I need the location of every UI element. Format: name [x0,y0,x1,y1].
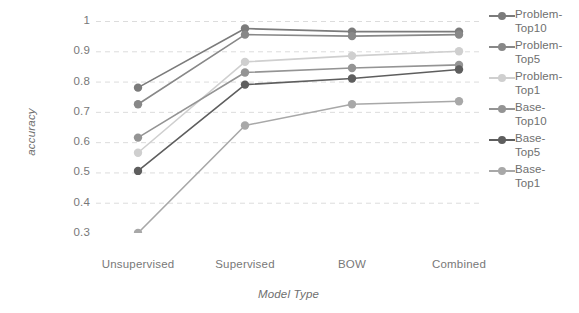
y-axis-tick-label: 0.4 [73,197,90,208]
data-point [241,30,249,38]
data-point [134,167,142,175]
legend-marker-icon [489,102,515,115]
legend-marker-icon [489,133,515,146]
y-axis-tick-label: 0.8 [73,76,90,87]
legend-label: Problem- Top1 [515,70,562,97]
legend-marker-icon [489,9,515,22]
data-point [348,32,356,40]
legend-label: Problem- Top10 [515,8,562,35]
y-axis-tick-label: 1 [83,15,90,26]
legend-marker-icon [489,164,515,177]
plot-svg [96,21,481,233]
y-axis-tick-label: 0.5 [73,166,90,177]
x-axis-tick-label: Supervised [215,258,275,270]
legend-label: Base- Top5 [515,132,546,159]
series-base-top1 [134,97,463,233]
legend-marker-icon [489,40,515,53]
data-point [348,52,356,60]
y-axis-tick-labels: 0.30.40.50.60.70.80.91 [42,0,90,313]
legend-item-problem-top10[interactable]: Problem- Top10 [489,8,579,35]
y-axis-tick-label: 0.3 [73,227,90,238]
legend-item-base-top5[interactable]: Base- Top5 [489,132,579,159]
data-point [455,47,463,55]
legend-item-problem-top5[interactable]: Problem- Top5 [489,39,579,66]
data-point [348,64,356,72]
data-point [134,83,142,91]
data-point [241,58,249,66]
y-axis-title: accuracy [25,87,37,177]
legend-item-base-top10[interactable]: Base- Top10 [489,101,579,128]
legend-item-problem-top1[interactable]: Problem- Top1 [489,70,579,97]
x-axis-tick-label: Unsupervised [102,258,175,270]
series-line [138,69,459,170]
y-axis-tick-label: 0.9 [73,45,90,56]
plot-area [96,21,481,233]
data-point [455,30,463,38]
legend-label: Base- Top10 [515,101,547,128]
data-point [241,121,249,129]
legend-label: Base- Top1 [515,163,546,190]
data-point [241,80,249,88]
data-point [455,65,463,73]
y-axis-tick-label: 0.6 [73,136,90,147]
data-point [134,149,142,157]
x-axis-title: Model Type [96,288,481,300]
series-line [138,101,459,233]
y-axis-tick-label: 0.7 [73,106,90,117]
series-line [138,65,459,138]
legend-item-base-top1[interactable]: Base- Top1 [489,163,579,190]
data-point [134,100,142,108]
legend-marker-icon [489,71,515,84]
data-point [134,133,142,141]
data-point [348,74,356,82]
data-point [348,100,356,108]
x-axis-tick-label: BOW [338,258,366,270]
data-point [455,97,463,105]
chart-figure: 0.30.40.50.60.70.80.91 accuracy Unsuperv… [0,0,579,313]
data-point [241,68,249,76]
x-axis-tick-label: Combined [432,258,486,270]
chart-legend: Problem- Top10Problem- Top5Problem- Top1… [489,8,579,194]
legend-label: Problem- Top5 [515,39,562,66]
x-axis-tick-labels: UnsupervisedSupervisedBOWCombined [96,258,481,274]
